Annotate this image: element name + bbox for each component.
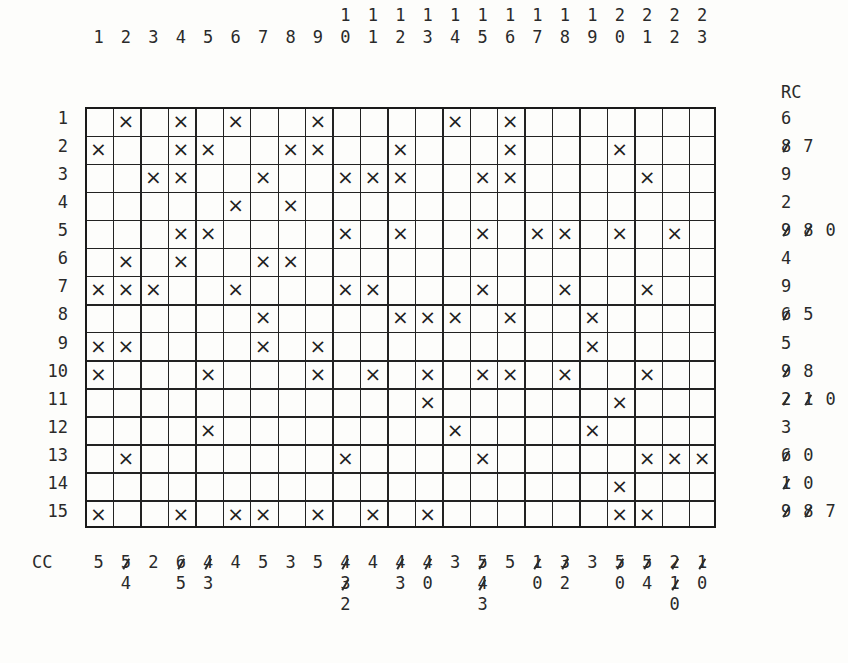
row-count: 6 <box>781 104 803 132</box>
x-mark-icon: × <box>304 107 331 135</box>
x-mark-icon: × <box>606 135 633 163</box>
column-header: 9 <box>304 26 331 48</box>
count-value: 0 <box>803 469 813 497</box>
struck-count-value: 4 <box>340 552 350 573</box>
x-mark-icon: × <box>387 303 414 331</box>
x-mark-icon: × <box>304 500 331 528</box>
struck-count-value: 2 <box>670 552 680 573</box>
count-value: 2 <box>148 552 158 573</box>
column-header: 2 <box>112 26 139 48</box>
x-mark-icon: × <box>387 163 414 191</box>
x-mark-icon: × <box>497 135 524 163</box>
x-mark-icon: × <box>634 444 661 472</box>
x-mark-icon: × <box>442 107 469 135</box>
column-header: 16 <box>497 4 524 48</box>
row-label: 8 <box>28 300 68 328</box>
x-mark-icon: × <box>497 107 524 135</box>
column-count-title: CC <box>32 552 52 572</box>
x-mark-icon: × <box>414 500 441 528</box>
struck-count-value: 5 <box>121 552 131 573</box>
x-mark-icon: × <box>140 163 167 191</box>
struck-count-value: 9 <box>781 357 791 385</box>
struck-count-value: 4 <box>423 552 433 573</box>
row-label: 15 <box>28 497 68 525</box>
column-header: 12 <box>387 4 414 48</box>
count-value: 3 <box>587 552 597 573</box>
x-mark-icon: × <box>469 444 496 472</box>
x-mark-icon: × <box>167 219 194 247</box>
x-mark-icon: × <box>524 219 551 247</box>
struck-count-value: 2 <box>781 385 791 413</box>
column-count: 54 <box>112 552 139 594</box>
struck-count-value: 3 <box>340 573 350 594</box>
column-header: 3 <box>140 26 167 48</box>
grid-vertical-line <box>278 109 279 526</box>
row-label: 5 <box>28 216 68 244</box>
struck-count-value: 8 <box>803 216 813 244</box>
struck-count-value: 6 <box>781 441 791 469</box>
x-mark-icon: × <box>304 360 331 388</box>
count-value: 4 <box>642 573 652 594</box>
row-label: 13 <box>28 441 68 469</box>
column-header: 22 <box>661 4 688 48</box>
grid-horizontal-line <box>87 332 714 333</box>
count-value: 5 <box>803 300 813 328</box>
count-value: 6 <box>781 104 791 132</box>
count-value: 4 <box>231 552 241 573</box>
incidence-grid: ××××××××××××××××××××××××××××××××××××××××… <box>85 107 716 528</box>
row-count: 210 <box>781 385 848 413</box>
grid-horizontal-line <box>87 416 714 417</box>
column-count: 3 <box>277 552 304 573</box>
x-mark-icon: × <box>222 107 249 135</box>
x-mark-icon: × <box>634 500 661 528</box>
column-count: 3 <box>442 552 469 573</box>
column-count: 4 <box>222 552 249 573</box>
struck-count-value: 4 <box>395 552 405 573</box>
x-mark-icon: × <box>387 219 414 247</box>
column-count: 10 <box>689 552 716 594</box>
row-label: 2 <box>28 132 68 160</box>
x-mark-icon: × <box>332 163 359 191</box>
row-count-title: RC <box>781 82 801 102</box>
struck-count-value: 1 <box>781 469 791 497</box>
x-mark-icon: × <box>689 444 716 472</box>
x-mark-icon: × <box>85 360 112 388</box>
x-mark-icon: × <box>469 360 496 388</box>
column-header: 6 <box>222 26 249 48</box>
x-mark-icon: × <box>387 135 414 163</box>
count-value: 9 <box>781 160 791 188</box>
x-mark-icon: × <box>167 107 194 135</box>
column-header: 1 <box>85 26 112 48</box>
count-value: 0 <box>803 441 813 469</box>
x-mark-icon: × <box>579 303 606 331</box>
row-count: 9 <box>781 272 803 300</box>
struck-count-value: 1 <box>670 573 680 594</box>
x-mark-icon: × <box>85 332 112 360</box>
column-count: 5 <box>85 552 112 573</box>
x-mark-icon: × <box>222 191 249 219</box>
count-value: 0 <box>826 385 836 413</box>
x-mark-icon: × <box>414 303 441 331</box>
x-mark-icon: × <box>634 275 661 303</box>
x-mark-icon: × <box>469 275 496 303</box>
x-mark-icon: × <box>195 360 222 388</box>
x-mark-icon: × <box>442 303 469 331</box>
column-count: 432 <box>332 552 359 615</box>
x-mark-icon: × <box>332 219 359 247</box>
count-value: 4 <box>781 244 791 272</box>
column-count: 54 <box>634 552 661 594</box>
column-header: 4 <box>167 26 194 48</box>
count-value: 7 <box>826 497 836 525</box>
column-header: 17 <box>524 4 551 48</box>
column-count: 43 <box>387 552 414 594</box>
x-mark-icon: × <box>112 247 139 275</box>
column-count: 50 <box>606 552 633 594</box>
column-count: 32 <box>551 552 578 594</box>
x-mark-icon: × <box>250 303 277 331</box>
struck-count-value: 6 <box>176 552 186 573</box>
row-count: 10 <box>781 469 826 497</box>
struck-count-value: 6 <box>781 300 791 328</box>
column-header: 23 <box>689 4 716 48</box>
column-header: 13 <box>414 4 441 48</box>
x-mark-icon: × <box>359 275 386 303</box>
